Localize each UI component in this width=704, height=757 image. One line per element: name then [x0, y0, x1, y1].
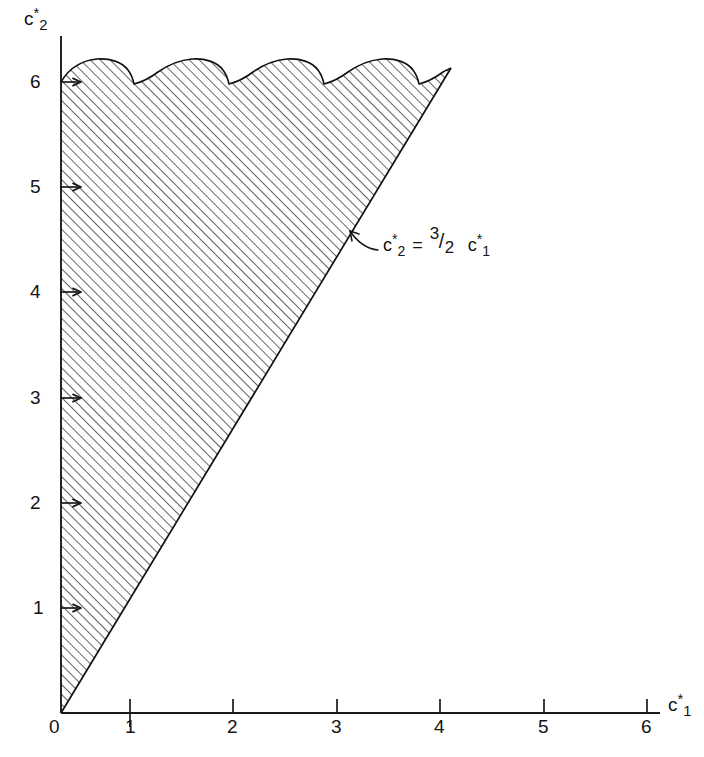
annotation-fraction: 3/2 — [430, 233, 456, 251]
x-tick-label-0: 0 — [49, 716, 60, 738]
annotation-rhs-subscript: 1 — [482, 243, 490, 259]
x-tick-label-3: 3 — [331, 716, 342, 738]
annotation-lhs-symbol: c — [383, 235, 392, 255]
y-axis-title-subscript: 2 — [39, 17, 47, 33]
annotation-rhs-symbol: c — [456, 235, 477, 255]
annotation-fraction-denominator: 2 — [445, 238, 454, 258]
x-axis-title-symbol: c — [668, 694, 678, 715]
plot-canvas — [0, 0, 704, 757]
x-tick-label-2: 2 — [227, 716, 238, 738]
y-axis-title-symbol: c — [24, 8, 34, 29]
x-tick-label-6: 6 — [641, 716, 652, 738]
x-tick-label-5: 5 — [538, 716, 549, 738]
x-tick-label-4: 4 — [434, 716, 445, 738]
annotation-equals: = — [405, 235, 430, 255]
y-tick-label-1: 1 — [33, 597, 44, 619]
boundary-line-label: c*2=3/2c*1 — [383, 233, 490, 256]
y-tick-label-2: 2 — [30, 492, 41, 514]
y-tick-label-6: 6 — [30, 71, 41, 93]
y-tick-label-5: 5 — [30, 176, 41, 198]
y-tick-label-3: 3 — [30, 387, 41, 409]
y-axis-title: c*2 — [24, 8, 48, 30]
x-axis-title-subscript: 1 — [683, 703, 691, 719]
y-tick-label-4: 4 — [30, 281, 41, 303]
x-tick-label-1: 1 — [125, 716, 136, 738]
x-axis-title: c*1 — [668, 694, 692, 716]
boundary-line-leader-arrow — [350, 231, 378, 250]
annotation-fraction-slash: / — [439, 230, 445, 253]
